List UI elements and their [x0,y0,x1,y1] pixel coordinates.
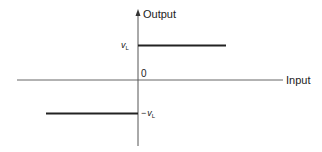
input-axis-label: Input [286,74,310,86]
output-axis-label: Output [143,8,176,20]
negative-level-label: −vL [141,108,156,119]
origin-label: 0 [141,68,147,79]
arrow-up-icon [136,9,141,16]
positive-level-label: vL [121,40,130,51]
transfer-characteristic-diagram: Output Input 0 vL −vL [0,0,322,152]
